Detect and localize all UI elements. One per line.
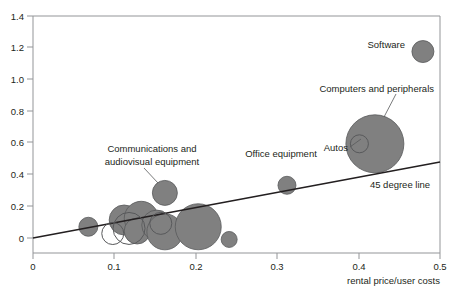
chart-canvas: 1.4 1.2 1.0 0.8 0.6 0.4 0.2 0 0 0.1 0.2 … — [0, 0, 454, 286]
bubble-unlabeled-11 — [221, 231, 237, 247]
x-tick-label-0.1: 0.1 — [107, 261, 120, 272]
x-tick-label-0.2: 0.2 — [189, 261, 202, 272]
label-communications-line1: Communications and — [107, 143, 196, 154]
x-tick-label-0.5: 0.5 — [433, 261, 446, 272]
x-tick-label-0.3: 0.3 — [270, 261, 283, 272]
leader-computers — [384, 94, 396, 117]
leader-communications — [144, 168, 158, 183]
reference-line-45-degree — [33, 162, 440, 238]
y-tick-label-0.8: 0.8 — [11, 106, 24, 117]
y-tick-label-0: 0 — [19, 233, 24, 244]
label-office-equipment: Office equipment — [245, 148, 317, 159]
label-communications-line2: audiovisual equipment — [105, 156, 200, 167]
y-axis-tick-labels: 1.4 1.2 1.0 0.8 0.6 0.4 0.2 0 — [11, 11, 24, 244]
bubble-chart: 1.4 1.2 1.0 0.8 0.6 0.4 0.2 0 0 0.1 0.2 … — [0, 0, 454, 286]
label-computers-and-peripherals: Computers and peripherals — [319, 83, 434, 94]
x-axis-tick-labels: 0 0.1 0.2 0.3 0.4 0.5 — [30, 261, 446, 272]
label-autos: Autos — [324, 142, 349, 153]
y-tick-label-0.4: 0.4 — [11, 169, 24, 180]
x-tick-label-0.4: 0.4 — [352, 261, 365, 272]
label-45-degree-line: 45 degree line — [370, 179, 430, 190]
label-software: Software — [368, 39, 406, 50]
y-tick-label-0.2: 0.2 — [11, 201, 24, 212]
x-axis-ticks — [33, 253, 440, 259]
x-axis-title: rental price/user costs — [347, 275, 440, 286]
y-tick-label-1.0: 1.0 — [11, 74, 24, 85]
x-tick-label-0: 0 — [30, 261, 35, 272]
y-axis-ticks — [27, 16, 33, 238]
y-tick-label-0.6: 0.6 — [11, 137, 24, 148]
y-tick-label-1.4: 1.4 — [11, 11, 24, 22]
y-tick-label-1.2: 1.2 — [11, 42, 24, 53]
bubble-software — [412, 41, 434, 63]
bubble-communications-and-audiovisual-equipment — [152, 180, 177, 205]
